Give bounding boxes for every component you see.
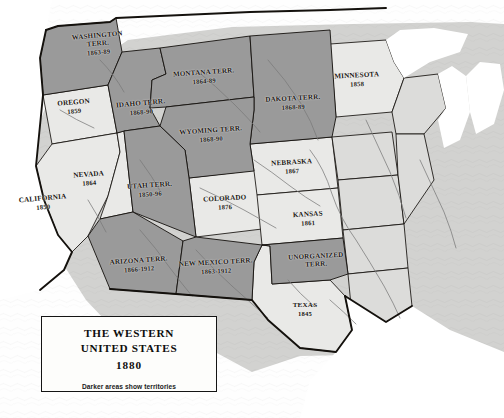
historical-map: WASHINGTON TERR. 1863-89 OREGON 1859 IDA… — [0, 0, 504, 418]
region-shape-missouri — [338, 175, 404, 230]
region-shape-newmexico-terr — [176, 237, 262, 300]
region-shape-iowa — [332, 132, 398, 180]
map-title-line-1: THE WESTERN — [84, 326, 174, 341]
map-title-line-2: UNITED STATES — [81, 341, 178, 356]
region-shape-kansas — [257, 188, 343, 245]
map-title-legend-box: THE WESTERN UNITED STATES 1880 Darker ar… — [41, 316, 217, 392]
region-shape-arkansas — [343, 224, 408, 274]
map-title-year: 1880 — [116, 357, 142, 374]
map-legend-note: Darker areas show territories — [82, 383, 176, 390]
region-shape-montana-terr — [150, 36, 254, 108]
region-shape-unorganized-terr — [262, 238, 348, 284]
region-shape-colorado — [189, 170, 262, 237]
region-shape-dakota-terr — [250, 30, 336, 144]
